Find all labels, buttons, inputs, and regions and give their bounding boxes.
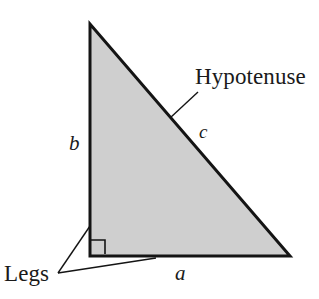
side-c-label: c — [199, 122, 207, 141]
side-b-label: b — [69, 133, 80, 154]
legs-label: Legs — [4, 262, 49, 285]
legs-leader-line-vertical — [58, 226, 90, 273]
right-triangle-figure: Hypotenuse Legs b c a — [0, 0, 319, 299]
figure-canvas — [0, 0, 319, 299]
hypotenuse-label: Hypotenuse — [195, 65, 306, 88]
side-a-label: a — [175, 263, 186, 284]
legs-leader-line-horizontal — [58, 258, 156, 273]
triangle-shape — [90, 24, 290, 256]
hypotenuse-leader-line — [170, 92, 198, 118]
